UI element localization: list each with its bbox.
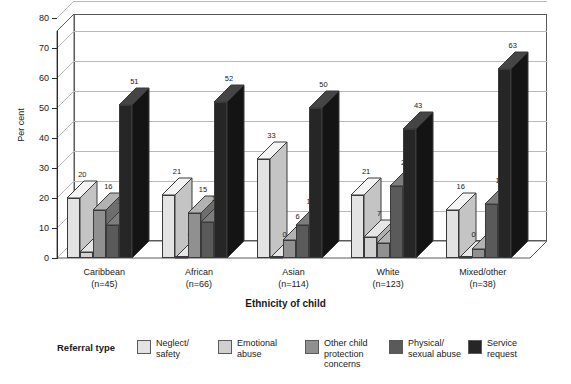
bar-value-label: 50 [310, 81, 338, 89]
group-sample-size: (n=38) [435, 278, 531, 290]
y-axis-title: Per cent [16, 90, 26, 160]
group-name: White [377, 267, 400, 277]
bar-front-face [188, 213, 201, 258]
group-sample-size: (n=45) [56, 278, 152, 290]
bar [403, 0, 425, 258]
legend-item[interactable]: Other child protection concerns [305, 338, 368, 370]
legend-label: Service request [487, 338, 517, 359]
bar-front-face [309, 108, 322, 258]
bar-top-face [214, 85, 244, 102]
legend-label: Neglect/ safety [156, 338, 189, 359]
x-axis-group-label: Asian(n=114) [246, 266, 342, 290]
bar-front-face [214, 102, 227, 258]
bar-top-face [119, 88, 149, 105]
bar-side-face [322, 91, 339, 258]
bar [119, 0, 141, 258]
bar-value-label: 52 [215, 75, 243, 83]
x-axis-group-label: Caribbean(n=45) [56, 266, 152, 290]
bar [498, 0, 520, 258]
bar-front-face [162, 195, 175, 258]
y-tick-label: 80 [23, 14, 49, 23]
bar-front-face [80, 252, 93, 258]
bar-front-face [459, 256, 472, 258]
y-tick-label: 50 [23, 104, 49, 113]
bar-side-face [227, 85, 244, 258]
bar-front-face [296, 225, 309, 258]
bar [309, 0, 331, 258]
legend-item[interactable]: Physical/ sexual abuse [389, 338, 461, 359]
bar-value-label: 43 [404, 102, 432, 110]
y-axis-line [57, 31, 58, 259]
x-axis-group-label: Mixed/other(n=38) [435, 266, 531, 290]
group-sample-size: (n=123) [340, 278, 436, 290]
legend-swatch [389, 340, 403, 354]
bar-front-face [390, 186, 403, 258]
group-name: Caribbean [84, 267, 126, 277]
legend-item[interactable]: Service request [468, 338, 517, 359]
legend-label: Other child protection concerns [324, 338, 368, 370]
bar-front-face [472, 249, 485, 258]
bar-front-face [93, 210, 106, 258]
bar-front-face [364, 237, 377, 258]
bar-chart: 0102030405060708020216115121015125233061… [0, 0, 571, 384]
y-tick-label: 10 [23, 224, 49, 233]
legend-swatch [137, 340, 151, 354]
bar-front-face [201, 222, 214, 258]
bar-front-face [175, 256, 188, 258]
bar-side-face [416, 112, 433, 258]
bar-side-face [132, 88, 149, 258]
bar-front-face [257, 159, 270, 258]
legend-label: Physical/ sexual abuse [408, 338, 461, 359]
bar-top-face [403, 112, 433, 129]
bar-front-face [377, 243, 390, 258]
y-tick-label: 40 [23, 134, 49, 143]
bar-side-face [511, 52, 528, 258]
legend-title: Referral type [57, 342, 115, 353]
x-axis-group-label: African(n=66) [151, 266, 247, 290]
legend-item[interactable]: Neglect/ safety [137, 338, 189, 359]
bar-front-face [498, 69, 511, 258]
legend-label: Emotional abuse [237, 338, 277, 359]
bar-front-face [283, 240, 296, 258]
group-name: African [185, 267, 213, 277]
bar-front-face [485, 204, 498, 258]
bar-top-face [309, 91, 339, 108]
x-axis-group-label: White(n=123) [340, 266, 436, 290]
group-name: Mixed/other [459, 267, 506, 277]
y-tick-label: 30 [23, 164, 49, 173]
bar-front-face [270, 256, 283, 258]
legend-item[interactable]: Emotional abuse [218, 338, 277, 359]
y-tick-label: 0 [23, 254, 49, 263]
group-name: Asian [282, 267, 305, 277]
bar-front-face [67, 198, 80, 258]
legend-swatch [218, 340, 232, 354]
bar-top-face [498, 52, 528, 69]
group-sample-size: (n=114) [246, 278, 342, 290]
legend-swatch [305, 340, 319, 354]
y-tick-label: 20 [23, 194, 49, 203]
bar-value-label: 63 [499, 42, 527, 50]
bar-front-face [119, 105, 132, 258]
bar-front-face [351, 195, 364, 258]
bar-value-label: 51 [120, 78, 148, 86]
bar-front-face [106, 225, 119, 258]
bar-front-face [403, 129, 416, 258]
group-sample-size: (n=66) [151, 278, 247, 290]
legend-swatch [468, 340, 482, 354]
y-tick-label: 70 [23, 44, 49, 53]
x-axis-title: Ethnicity of child [0, 298, 571, 309]
bar [214, 0, 236, 258]
bar-front-face [446, 210, 459, 258]
y-tick-mark [52, 18, 57, 19]
y-tick-label: 60 [23, 74, 49, 83]
chart-legend: Referral type Neglect/ safetyEmotional a… [0, 336, 571, 384]
